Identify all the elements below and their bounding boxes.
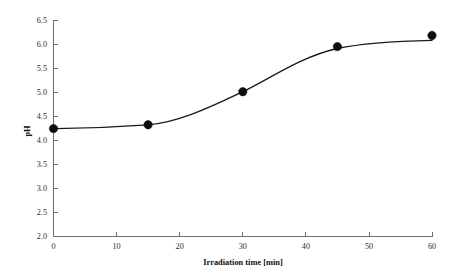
- x-axis-ticks: [54, 232, 433, 237]
- y-tick-label: 2.0: [37, 232, 47, 241]
- data-point: [428, 31, 436, 39]
- x-tick-label: 50: [365, 242, 373, 251]
- data-point: [239, 88, 247, 96]
- y-tick-label: 2.5: [37, 208, 47, 217]
- x-tick-label: 0: [51, 242, 55, 251]
- ph-vs-irradiation-time-chart: 6.5 6.0 5.5 5.0 4.5 4.0 3.5 3.0 2.5 2.0 …: [0, 0, 455, 278]
- x-tick-label: 20: [176, 242, 184, 251]
- data-point: [333, 42, 341, 50]
- data-point: [49, 124, 57, 132]
- y-tick-label: 5.5: [37, 64, 47, 73]
- x-tick-label: 10: [113, 242, 121, 251]
- chart-figure: 6.5 6.0 5.5 5.0 4.5 4.0 3.5 3.0 2.5 2.0 …: [0, 0, 455, 278]
- y-tick-label: 5.0: [37, 88, 47, 97]
- x-axis-tick-labels: 0 10 20 30 40 50 60: [51, 242, 436, 251]
- data-point: [144, 121, 152, 129]
- y-tick-label: 3.5: [37, 160, 47, 169]
- y-tick-label: 6.0: [37, 40, 47, 49]
- y-axis-tick-labels: 6.5 6.0 5.5 5.0 4.5 4.0 3.5 3.0 2.5 2.0: [37, 16, 47, 241]
- data-series-line: [54, 40, 433, 128]
- y-axis-title: pH: [23, 125, 32, 137]
- data-markers: [49, 31, 436, 133]
- x-tick-label: 40: [302, 242, 310, 251]
- y-tick-label: 4.0: [37, 136, 47, 145]
- x-axis-title: Irradiation time [min]: [203, 258, 283, 267]
- axis-lines: [54, 20, 433, 237]
- x-tick-label: 30: [239, 242, 247, 251]
- y-tick-label: 6.5: [37, 16, 47, 25]
- x-tick-label: 60: [428, 242, 436, 251]
- y-tick-label: 3.0: [37, 184, 47, 193]
- y-tick-label: 4.5: [37, 112, 47, 121]
